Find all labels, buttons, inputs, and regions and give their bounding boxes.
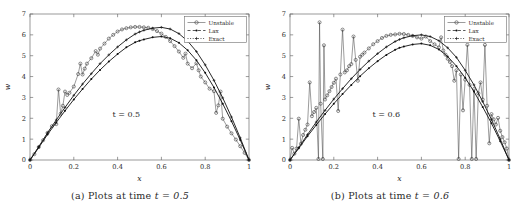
marker-lax: [438, 48, 440, 50]
marker-lax: [139, 40, 141, 42]
marker-lax: [394, 49, 396, 51]
plot-b: 00.20.40.60.8101234567xwt = 0.6UnstableL…: [260, 0, 520, 190]
marker-lax: [178, 42, 180, 44]
marker-lax: [315, 124, 317, 126]
marker-lax: [482, 106, 484, 108]
marker-lax: [125, 46, 127, 48]
caption-a-text: Plots at time: [88, 190, 151, 201]
x-tick-label: 0.6: [416, 163, 427, 171]
marker-lax: [117, 53, 119, 55]
x-tick-label: 0.6: [156, 163, 167, 171]
legend-label: Unstable: [469, 20, 495, 26]
x-axis-label: x: [397, 174, 402, 183]
marker-lax: [195, 59, 197, 61]
marker-lax: [377, 60, 379, 62]
time-annotation: t = 0.6: [372, 110, 400, 119]
caption-a: (a) Plots at time t = 0.5: [0, 190, 260, 201]
marker-lax: [143, 38, 145, 40]
marker-lax: [403, 46, 405, 48]
series-unstable-line: [290, 22, 509, 160]
marker-lax: [359, 75, 361, 77]
marker-lax: [473, 91, 475, 93]
y-tick-label: 4: [282, 73, 286, 81]
legend-label: Exact: [469, 36, 486, 42]
marker-lax: [169, 37, 171, 39]
x-tick-label: 0: [28, 163, 32, 171]
y-tick-label: 7: [282, 10, 286, 18]
x-axis-label: x: [137, 174, 142, 183]
y-axis-label: w: [263, 83, 272, 90]
legend-label: Lax: [469, 28, 480, 34]
marker-lax: [82, 88, 84, 90]
marker-lax: [230, 120, 232, 122]
plot-b-svg: 00.20.40.60.8101234567xwt = 0.6UnstableL…: [260, 0, 520, 190]
caption-b-math: t = 0.6: [415, 190, 449, 201]
caption-a-prefix: (a): [71, 190, 85, 201]
x-tick-label: 0.2: [69, 163, 80, 171]
y-tick-label: 3: [22, 94, 26, 102]
marker-lax: [204, 72, 206, 74]
legend: UnstableLaxExact: [445, 17, 507, 43]
y-tick-label: 7: [22, 10, 26, 18]
marker-lax: [447, 56, 449, 58]
marker-lax: [134, 41, 136, 43]
marker-lax: [368, 67, 370, 69]
time-annotation: t = 0.5: [112, 110, 140, 119]
y-tick-label: 5: [22, 52, 26, 60]
caption-a-math: t = 0.5: [155, 190, 189, 201]
marker-lax: [385, 54, 387, 56]
x-tick-label: 1: [247, 163, 251, 171]
x-tick-label: 0.4: [112, 163, 123, 171]
plot-a: 00.20.40.60.8101234567xwt = 0.5UnstableL…: [0, 0, 260, 190]
marker-lax: [222, 103, 224, 105]
legend: UnstableLaxExact: [185, 17, 247, 43]
legend-marker-dot-icon: [195, 29, 197, 31]
marker-lax: [350, 84, 352, 86]
marker-lax: [412, 43, 414, 45]
marker-lax: [333, 103, 335, 105]
x-tick-label: 0.8: [200, 163, 211, 171]
series-lax-line: [30, 37, 249, 160]
panel-b: 00.20.40.60.8101234567xwt = 0.6UnstableL…: [260, 0, 520, 218]
marker-lax: [160, 36, 162, 38]
marker-lax: [399, 47, 401, 49]
panel-a: 00.20.40.60.8101234567xwt = 0.5UnstableL…: [0, 0, 260, 218]
marker-lax: [187, 49, 189, 51]
x-tick-label: 0.4: [372, 163, 383, 171]
marker-lax: [342, 93, 344, 95]
y-tick-label: 2: [22, 115, 26, 123]
marker-lax: [490, 122, 492, 124]
marker-lax: [464, 77, 466, 79]
marker-lax: [55, 121, 57, 123]
x-tick-label: 0.8: [460, 163, 471, 171]
marker-lax: [99, 69, 101, 71]
marker-lax: [420, 43, 422, 45]
y-tick-label: 1: [22, 136, 26, 144]
caption-b: (b) Plots at time t = 0.6: [260, 190, 520, 201]
marker-lax: [455, 65, 457, 67]
y-axis-label: w: [3, 83, 12, 90]
marker-lax: [324, 113, 326, 115]
caption-b-prefix: (b): [331, 190, 345, 201]
caption-b-text: Plots at time: [348, 190, 411, 201]
legend-label: Exact: [209, 36, 226, 42]
legend-marker-dot-icon: [455, 29, 457, 31]
x-tick-label: 0.2: [329, 163, 340, 171]
y-tick-label: 6: [22, 31, 26, 39]
figure-two-panel-plots: 00.20.40.60.8101234567xwt = 0.5UnstableL…: [0, 0, 520, 218]
marker-lax: [73, 99, 75, 101]
legend-label: Unstable: [209, 20, 235, 26]
y-tick-label: 6: [282, 31, 286, 39]
x-tick-label: 1: [507, 163, 511, 171]
y-tick-label: 3: [282, 94, 286, 102]
marker-lax: [152, 36, 154, 38]
y-tick-label: 5: [282, 52, 286, 60]
marker-lax: [108, 61, 110, 63]
x-tick-label: 0: [288, 163, 292, 171]
plot-a-svg: 00.20.40.60.8101234567xwt = 0.5UnstableL…: [0, 0, 260, 190]
marker-lax: [213, 86, 215, 88]
marker-lax: [90, 78, 92, 80]
y-tick-label: 1: [282, 136, 286, 144]
series-unstable-line: [30, 27, 249, 160]
marker-lax: [64, 110, 66, 112]
